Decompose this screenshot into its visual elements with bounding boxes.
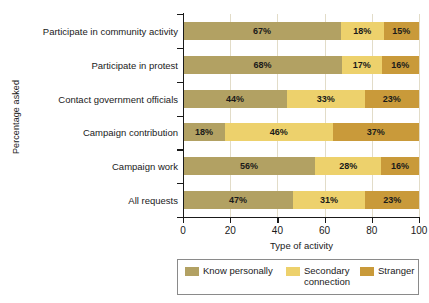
legend-item-stranger: Stranger (360, 266, 414, 277)
y-axis-tick (177, 48, 183, 49)
category-label: Participate in protest (0, 60, 178, 71)
legend-label-know-personally: Know personally (203, 266, 273, 277)
bar-row: 44%33%23% (183, 90, 419, 108)
y-axis-tick (177, 14, 183, 15)
bar-segment-2: 33% (287, 90, 365, 108)
x-axis-tick-label: 40 (257, 225, 297, 236)
bar-segment-2: 46% (225, 123, 332, 141)
x-axis-tick (230, 218, 231, 223)
legend-swatch-secondary-connection (286, 267, 300, 276)
plot-area: 67%18%15%68%17%16%44%33%23%18%46%37%56%2… (183, 14, 419, 217)
bar-segment-2: 18% (341, 22, 383, 40)
x-axis-tick (325, 218, 326, 223)
x-axis-tick-label: 80 (352, 225, 392, 236)
bar-segment-3: 37% (333, 123, 419, 141)
bar-segment-2: 31% (293, 191, 365, 209)
category-label: All requests (0, 195, 178, 206)
category-label: Contact government officials (0, 94, 178, 105)
gridline (325, 14, 326, 217)
bar-row: 18%46%37% (183, 123, 419, 141)
legend-label-stranger: Stranger (378, 266, 414, 277)
bar-segment-1: 68% (183, 56, 342, 74)
bar-segment-3: 23% (365, 90, 419, 108)
bar-row: 47%31%23% (183, 191, 419, 209)
x-axis-title: Type of activity (183, 240, 420, 251)
legend-item-secondary-connection: Secondary connection (286, 266, 350, 287)
y-axis-tick (177, 149, 183, 150)
legend-swatch-stranger (360, 267, 374, 276)
bar-segment-3: 23% (365, 191, 419, 209)
x-axis-tick (419, 218, 420, 223)
bar-segment-3: 16% (381, 157, 419, 175)
y-axis-tick (177, 116, 183, 117)
y-axis-tick (177, 183, 183, 184)
x-axis-tick-label: 20 (210, 225, 250, 236)
stacked-bar-chart: Percentage asked 67%18%15%68%17%16%44%33… (0, 0, 429, 303)
legend-label-secondary-connection: Secondary connection (304, 266, 350, 287)
gridline (277, 14, 278, 217)
category-label: Campaign work (0, 161, 178, 172)
x-axis-tick (372, 218, 373, 223)
bar-segment-2: 17% (342, 56, 382, 74)
chart-legend: Know personally Secondary connection Str… (177, 259, 419, 295)
category-label: Participate in community activity (0, 26, 178, 37)
category-label: Campaign contribution (0, 127, 178, 138)
legend-swatch-know-personally (185, 267, 199, 276)
x-axis-tick-label: 60 (305, 225, 345, 236)
y-axis-line (183, 13, 184, 218)
bar-segment-1: 56% (183, 157, 315, 175)
gridline (230, 14, 231, 217)
x-axis-line (183, 217, 420, 218)
x-axis-tick (183, 218, 184, 223)
bar-segment-2: 28% (315, 157, 381, 175)
bar-row: 68%17%16% (183, 56, 419, 74)
bar-segment-1: 67% (183, 22, 341, 40)
bar-row: 67%18%15% (183, 22, 419, 40)
x-axis-tick-label: 0 (163, 225, 203, 236)
bar-segment-3: 16% (382, 56, 419, 74)
gridline (372, 14, 373, 217)
bar-row: 56%28%16% (183, 157, 419, 175)
bar-segment-1: 44% (183, 90, 287, 108)
legend-item-know-personally: Know personally (185, 266, 273, 277)
bar-segment-1: 18% (183, 123, 225, 141)
bar-segment-1: 47% (183, 191, 293, 209)
bar-segment-3: 15% (384, 22, 419, 40)
x-axis-tick (277, 218, 278, 223)
x-axis-tick-label: 100 (399, 225, 429, 236)
gridline (419, 14, 420, 217)
y-axis-tick (177, 82, 183, 83)
